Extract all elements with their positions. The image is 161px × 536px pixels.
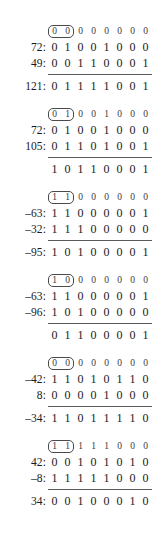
addition-block: 0000000072:0100100049:00110001121:011110… (0, 24, 161, 94)
digit: 1 (74, 244, 87, 260)
digit: 1 (113, 410, 126, 426)
carry-digit: 0 (74, 356, 87, 371)
carry-digit: 0 (87, 356, 100, 371)
digit: 0 (61, 493, 74, 509)
digit: 0 (126, 205, 139, 221)
digit: 0 (126, 387, 139, 403)
addend-row-digits: 11111000 (48, 470, 152, 486)
digit: 0 (87, 454, 100, 470)
digit: 0 (87, 327, 100, 343)
digit: 1 (100, 410, 113, 426)
digit: 0 (87, 304, 100, 320)
sum-divider (0, 486, 161, 493)
digit: 1 (87, 410, 100, 426)
digit: 1 (48, 221, 61, 237)
digit: 0 (113, 470, 126, 486)
worksheet: 0000000072:0100100049:00110001121:011110… (0, 0, 161, 536)
digit: 1 (61, 122, 74, 138)
addition-block: 10000000–63:11000001–96:1010000001100001 (0, 273, 161, 343)
sum-row-label: 121: (0, 78, 46, 94)
carry-digit: 0 (126, 190, 139, 205)
sum-row-digits: 01111001 (48, 78, 152, 94)
digit: 0 (87, 493, 100, 509)
digit: 0 (61, 244, 74, 260)
digit: 0 (87, 138, 100, 154)
addend-row: –42:11010110 (0, 371, 161, 387)
digit: 0 (139, 454, 152, 470)
carry-digit: 0 (100, 24, 113, 39)
addend-row-label: 8: (0, 387, 46, 403)
addend-row-label: 49: (0, 55, 46, 71)
digit: 0 (100, 288, 113, 304)
carry-digit: 0 (126, 273, 139, 288)
sum-row-label: –34: (0, 410, 46, 426)
carry-row: 00000000 (0, 356, 161, 371)
digit: 1 (61, 138, 74, 154)
digit: 0 (113, 221, 126, 237)
carry-row: 01001000 (0, 107, 161, 122)
carry-digit: 1 (48, 273, 61, 288)
digit: 0 (100, 493, 113, 509)
digit: 0 (74, 371, 87, 387)
carry-digit: 0 (48, 107, 61, 122)
digit: 0 (48, 327, 61, 343)
addend-row: 49:00110001 (0, 55, 161, 71)
digit: 0 (113, 244, 126, 260)
carry-row-digits: 00000000 (48, 24, 152, 39)
addend-row-label: 72: (0, 122, 46, 138)
digit: 0 (74, 410, 87, 426)
digit: 1 (61, 39, 74, 55)
carry-digit: 0 (139, 273, 152, 288)
addend-row-label: 105: (0, 138, 46, 154)
digit: 1 (87, 161, 100, 177)
digit: 0 (100, 244, 113, 260)
addend-row-label: –96: (0, 304, 46, 320)
digit: 1 (74, 493, 87, 509)
addition-block: 00000000–42:110101108:00001000–34:110111… (0, 356, 161, 426)
digit: 0 (113, 387, 126, 403)
block-spacer (0, 260, 161, 273)
carry-digit: 0 (113, 439, 126, 454)
digit: 1 (61, 78, 74, 94)
digit: 0 (126, 304, 139, 320)
digit: 1 (139, 138, 152, 154)
addend-row-digits: 01101001 (48, 138, 152, 154)
sum-row: 121:01111001 (0, 78, 161, 94)
carry-digit: 0 (61, 24, 74, 39)
sum-divider (0, 403, 161, 410)
addend-row-digits: 00110001 (48, 55, 152, 71)
carry-digit: 0 (139, 24, 152, 39)
carry-digit: 0 (126, 439, 139, 454)
digit: 0 (113, 55, 126, 71)
sum-rule-line (48, 240, 152, 241)
digit: 0 (48, 78, 61, 94)
digit: 1 (87, 371, 100, 387)
digit: 0 (100, 327, 113, 343)
digit: 1 (61, 205, 74, 221)
digit: 1 (139, 244, 152, 260)
digit: 0 (87, 122, 100, 138)
sum-divider (0, 71, 161, 78)
sum-row: 10110001 (0, 161, 161, 177)
digit: 1 (139, 55, 152, 71)
digit: 1 (126, 371, 139, 387)
digit: 0 (113, 205, 126, 221)
digit: 1 (100, 122, 113, 138)
sum-row: 34:00100010 (0, 493, 161, 509)
digit: 1 (74, 55, 87, 71)
carry-digit: 1 (48, 190, 61, 205)
digit: 0 (48, 138, 61, 154)
digit: 0 (113, 138, 126, 154)
digit: 0 (61, 454, 74, 470)
sum-divider (0, 154, 161, 161)
carry-digit: 0 (139, 107, 152, 122)
digit: 0 (87, 288, 100, 304)
digit: 0 (74, 288, 87, 304)
digit: 1 (113, 371, 126, 387)
digit: 1 (74, 221, 87, 237)
digit: 1 (74, 304, 87, 320)
digit: 0 (87, 205, 100, 221)
digit: 0 (113, 161, 126, 177)
addend-row: 105:01101001 (0, 138, 161, 154)
digit: 1 (74, 138, 87, 154)
